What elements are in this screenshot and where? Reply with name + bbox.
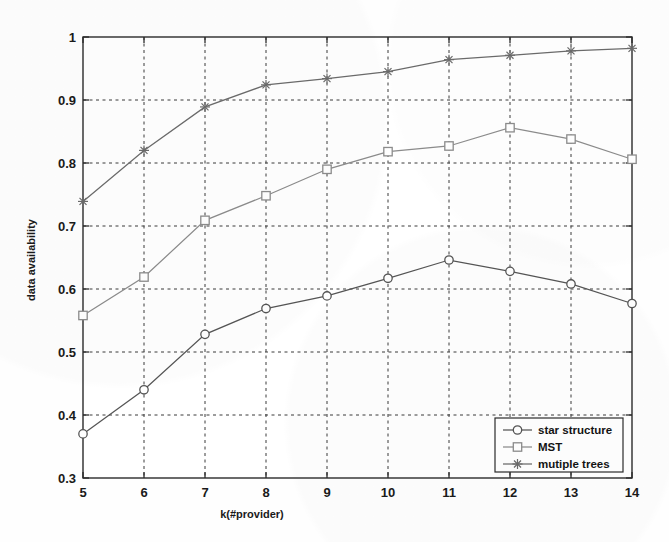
chart-legend[interactable]: star structure MST mutiple trees [495, 418, 623, 472]
data-point-marker [567, 280, 575, 288]
data-point-marker [140, 273, 148, 281]
data-point-marker [323, 165, 331, 173]
x-tick-label: 11 [442, 485, 456, 500]
y-axis-title: data availability [25, 218, 37, 301]
data-point-marker [628, 299, 636, 307]
data-point-marker [79, 311, 87, 319]
data-point-marker [323, 292, 331, 300]
data-point-marker [567, 135, 575, 143]
data-point-marker [201, 216, 209, 224]
data-point-marker [445, 142, 453, 150]
x-tick-label: 7 [201, 485, 208, 500]
y-tick-label: 0.5 [58, 345, 76, 360]
y-tick-label: 0.3 [58, 471, 76, 486]
data-point-marker [445, 256, 453, 264]
y-tick-label: 0.8 [58, 156, 76, 171]
data-point-marker [79, 430, 87, 438]
x-tick-label: 6 [140, 485, 147, 500]
data-point-marker [628, 155, 636, 163]
x-tick-label: 12 [503, 485, 517, 500]
legend-label-mst: MST [538, 441, 562, 453]
data-availability-line-chart: 1 0.9 0.8 0.7 0.6 0.5 0.4 0.3 5 6 7 8 9 … [0, 0, 669, 542]
x-tick-label: 10 [381, 485, 395, 500]
y-axis-tick-labels: 1 0.9 0.8 0.7 0.6 0.5 0.4 0.3 [58, 30, 77, 486]
data-point-marker [506, 124, 514, 132]
x-tick-label: 13 [564, 485, 578, 500]
x-tick-label: 14 [625, 485, 640, 500]
data-point-marker [262, 304, 270, 312]
data-point-marker [262, 192, 270, 200]
x-tick-label: 8 [262, 485, 269, 500]
chart-page: 1 0.9 0.8 0.7 0.6 0.5 0.4 0.3 5 6 7 8 9 … [0, 0, 669, 542]
y-tick-label: 1 [69, 30, 76, 45]
y-tick-label: 0.7 [58, 219, 76, 234]
x-axis-title: k(#provider) [220, 508, 284, 520]
legend-sample-marker [513, 443, 521, 451]
y-tick-label: 0.4 [58, 408, 77, 423]
legend-label-star-structure: star structure [538, 424, 612, 436]
data-point-marker [384, 147, 392, 155]
y-tick-label: 0.6 [58, 282, 76, 297]
legend-label-mutiple-trees: mutiple trees [538, 458, 610, 470]
x-tick-label: 9 [323, 485, 330, 500]
data-point-marker [506, 267, 514, 275]
legend-sample-marker [513, 426, 521, 434]
x-axis-tick-labels: 5 6 7 8 9 10 11 12 13 14 [79, 485, 640, 500]
y-tick-label: 0.9 [58, 93, 76, 108]
data-point-marker [384, 274, 392, 282]
data-point-marker [201, 330, 209, 338]
x-tick-label: 5 [79, 485, 86, 500]
data-point-marker [140, 386, 148, 394]
